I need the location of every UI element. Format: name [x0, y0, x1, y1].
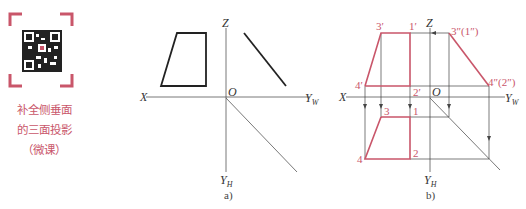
- point-2-top: 2: [413, 147, 419, 159]
- point-4-side: 4″(2″): [488, 76, 516, 89]
- x-axis-label: X: [139, 90, 148, 104]
- side-view-line: [244, 33, 286, 86]
- point-4-top: 4: [357, 153, 363, 165]
- point-2-front: 2′: [413, 86, 421, 98]
- point-3-front: 3′: [376, 20, 384, 32]
- z-axis-label: Z: [222, 16, 229, 30]
- point-3-top: 3: [384, 105, 390, 117]
- yw-axis-label: YW: [305, 91, 320, 107]
- point-4-front: 4′: [355, 79, 363, 91]
- x-axis-label: X: [338, 90, 347, 104]
- figure-a-label: a): [224, 189, 233, 202]
- projection-diagram: X Z O YW YH a): [0, 0, 526, 209]
- origin-label: O: [228, 85, 237, 99]
- point-1-top: 1: [413, 105, 419, 117]
- yw-axis-label: YW: [505, 91, 520, 107]
- front-view-trapezoid: [161, 33, 206, 86]
- origin-label: O: [432, 85, 441, 99]
- z-axis-label: Z: [426, 16, 433, 30]
- yh-axis-label: YH: [424, 173, 438, 189]
- point-3-side: 3″(1″): [451, 25, 479, 38]
- figure-a: X Z O YW YH a): [139, 16, 320, 202]
- figure-b-label: b): [426, 189, 436, 202]
- figure-b: X Z O YW YH 3′ 1′ 4′ 2′ 3″(1″) 4″(2″) 3 …: [338, 16, 520, 202]
- yh-axis-label: YH: [220, 173, 234, 189]
- point-1-front: 1′: [409, 20, 417, 32]
